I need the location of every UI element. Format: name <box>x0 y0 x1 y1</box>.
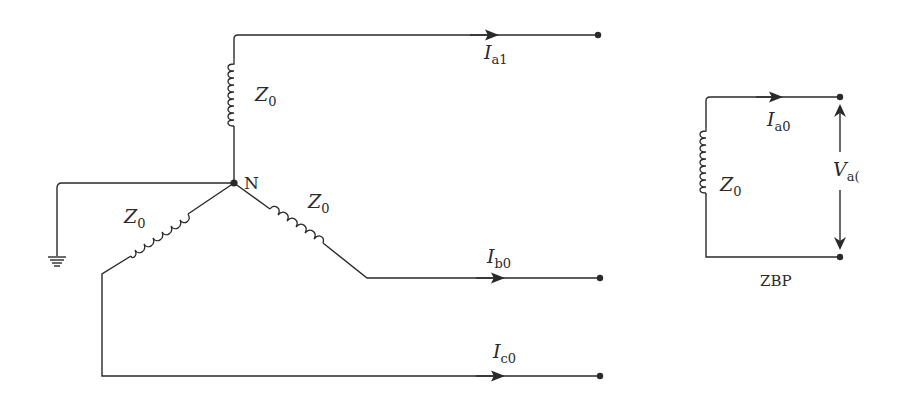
zbp-top-terminal <box>837 94 843 100</box>
current-b-label: Ib0 <box>486 245 511 271</box>
inductor-a-icon <box>228 58 234 126</box>
phase-b-branch <box>234 183 603 281</box>
zbp-caption: ZBP <box>760 272 792 290</box>
impedance-a-label: Z0 <box>254 83 276 109</box>
terminal-b-dot <box>597 275 603 281</box>
zbp-voltage-label: Va( <box>833 158 860 184</box>
neutral-label: N <box>244 173 259 193</box>
current-c-label: Ic0 <box>492 340 516 366</box>
current-a-label: Ia1 <box>483 41 508 67</box>
phase-a-branch <box>228 32 601 183</box>
impedance-b-label: Z0 <box>307 190 329 216</box>
zbp-impedance-label: Z0 <box>719 173 741 199</box>
ground-icon <box>48 257 66 266</box>
impedance-c-label: Z0 <box>123 205 145 231</box>
inductor-zbp-icon <box>700 128 706 193</box>
terminal-a-dot <box>595 32 601 38</box>
zbp-current-label: Ia0 <box>766 108 791 134</box>
terminal-c-dot <box>597 373 603 379</box>
circuit-diagram: N Z0 Z0 Z0 Ia1 Ib0 Ic0 Z0 Ia0 <box>0 0 897 400</box>
zbp-bottom-terminal <box>837 254 843 260</box>
phase-c-branch <box>102 183 603 379</box>
